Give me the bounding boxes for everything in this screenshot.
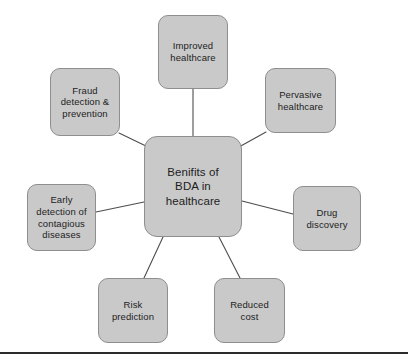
diagram-canvas: Improved healthcarePervasive healthcareF… [0,0,408,363]
connector-center-to-risk-prediction [144,237,163,278]
node-drug-discovery[interactable]: Drug discovery [293,186,361,251]
connector-center-to-drug-discovery [242,201,293,214]
node-label-fraud-detection-prevention: Fraud detection & prevention [58,85,113,120]
node-label-early-detection-contagious-diseases: Early detection of contagious diseases [33,194,89,240]
node-improved-healthcare[interactable]: Improved healthcare [158,15,228,89]
node-reduced-cost[interactable]: Reduced cost [214,278,285,343]
center-node[interactable]: Benifits of BDA in healthcare [144,136,242,237]
node-label-reduced-cost: Reduced cost [227,299,272,322]
bottom-divider-rule [0,352,408,354]
node-fraud-detection-prevention[interactable]: Fraud detection & prevention [50,68,120,136]
connector-center-to-reduced-cost [219,237,240,278]
node-pervasive-healthcare[interactable]: Pervasive healthcare [265,68,336,133]
node-label-pervasive-healthcare: Pervasive healthcare [275,89,326,112]
node-label-improved-healthcare: Improved healthcare [167,40,218,63]
node-early-detection-contagious-diseases[interactable]: Early detection of contagious diseases [27,184,96,251]
connector-center-to-early-detection [96,202,144,212]
connector-center-to-pervasive-healthcare [239,132,266,147]
center-node-label: Benifits of BDA in healthcare [163,165,224,207]
node-label-drug-discovery: Drug discovery [303,207,350,230]
node-label-risk-prediction: Risk prediction [109,299,157,322]
node-risk-prediction[interactable]: Risk prediction [98,278,168,343]
